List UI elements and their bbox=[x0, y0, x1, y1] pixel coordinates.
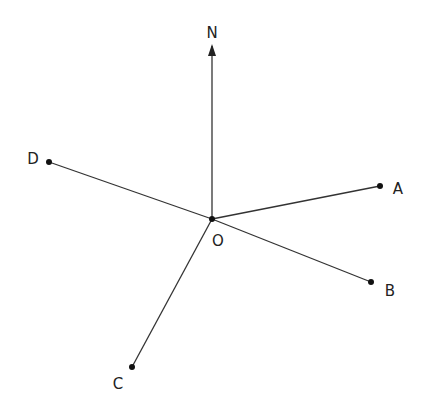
line-od bbox=[49, 162, 212, 219]
north-arrow-icon bbox=[208, 44, 216, 56]
point-d bbox=[46, 159, 52, 165]
label-a: A bbox=[393, 180, 404, 198]
compass-bearing-diagram: N O A B C D bbox=[0, 0, 422, 407]
label-c: C bbox=[113, 375, 123, 393]
line-oc bbox=[132, 219, 212, 367]
label-o: O bbox=[212, 232, 224, 250]
label-b: B bbox=[385, 282, 395, 300]
label-n: N bbox=[206, 24, 217, 42]
point-a bbox=[377, 183, 383, 189]
line-oa bbox=[212, 186, 380, 219]
label-d: D bbox=[27, 150, 39, 168]
diagram-svg: N O A B C D bbox=[0, 0, 422, 407]
point-c bbox=[129, 364, 135, 370]
point-b bbox=[368, 279, 374, 285]
line-ob bbox=[212, 219, 371, 282]
point-o bbox=[209, 216, 215, 222]
